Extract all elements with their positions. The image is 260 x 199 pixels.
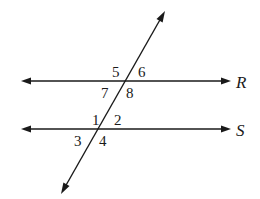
angle-7-label: 7 bbox=[101, 85, 109, 101]
line-s bbox=[21, 126, 231, 133]
line-s-right-arrowhead-icon bbox=[221, 126, 231, 133]
transversal-top-arrowhead-icon bbox=[157, 11, 166, 23]
transversal-segment bbox=[65, 18, 161, 187]
line-r-right-arrowhead-icon bbox=[221, 78, 231, 85]
transversal-bottom-arrowhead-icon bbox=[61, 182, 70, 194]
line-r-label: R bbox=[235, 73, 247, 92]
angle-8-label: 8 bbox=[126, 85, 134, 101]
line-s-left-arrowhead-icon bbox=[21, 126, 31, 133]
angle-5-label: 5 bbox=[112, 64, 120, 80]
angle-4-label: 4 bbox=[99, 133, 107, 149]
angle-3-label: 3 bbox=[74, 133, 82, 149]
line-r-left-arrowhead-icon bbox=[21, 78, 31, 85]
line-s-label: S bbox=[236, 121, 245, 140]
angle-1-label: 1 bbox=[92, 112, 100, 128]
diagram-svg: R S 5 6 7 8 1 2 3 4 bbox=[0, 0, 260, 199]
transversal bbox=[61, 11, 165, 194]
angle-6-label: 6 bbox=[138, 64, 146, 80]
angle-2-label: 2 bbox=[114, 112, 122, 128]
parallel-lines-diagram: R S 5 6 7 8 1 2 3 4 bbox=[0, 0, 260, 199]
